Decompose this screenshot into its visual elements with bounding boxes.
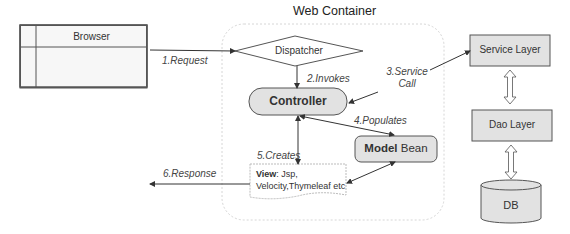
service-call-arrow [430,51,470,70]
step-service-call-label-2: Call [382,78,432,89]
view-label: View: Jsp, Velocity,Thymeleaf etc [256,168,345,192]
dispatcher-label: Dispatcher [235,45,363,56]
request-arrow [150,50,235,51]
view-model-arrow [347,162,395,183]
step-response-label: 6.Response [163,168,216,179]
service-dao-double-arrow [504,70,516,104]
controller-label: Controller [249,94,347,108]
db-label: DB [481,199,541,211]
view-bold: View [256,169,276,179]
step-service-call-label-1: 3.Service [382,66,432,77]
model-bean-label: Model Bean [355,142,437,154]
step-request-label: 1.Request [162,55,208,66]
dao-layer-label: Dao Layer [472,119,552,130]
dao-db-double-arrow [505,145,517,179]
step-invokes-label: 2.Invokes [307,73,350,84]
view-line1: : Jsp, [276,169,298,179]
view-line2: Velocity,Thymeleaf etc [256,181,345,191]
web-container-title: Web Container [293,4,376,18]
model-rest: Bean [398,142,428,154]
step-creates-label: 5.Creates [257,150,300,161]
step-populates-label: 4.Populates [354,115,407,126]
model-bold: Model [364,142,397,154]
browser-label: Browser [36,31,147,42]
service-layer-label: Service Layer [470,44,550,55]
